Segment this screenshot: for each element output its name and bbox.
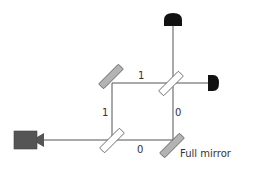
path-label-right: 0 bbox=[175, 107, 181, 118]
source-camera-icon bbox=[14, 131, 44, 149]
detector-right-icon bbox=[208, 75, 219, 91]
full-mirror-top-left bbox=[99, 64, 124, 89]
interferometer-diagram: 1 1 0 0 Full mirror bbox=[0, 0, 260, 169]
path-label-left: 1 bbox=[102, 107, 108, 118]
path-label-bottom: 0 bbox=[137, 144, 143, 155]
detector-top-icon bbox=[164, 13, 182, 26]
path-label-top: 1 bbox=[138, 70, 144, 81]
beam-paths bbox=[44, 22, 212, 140]
full-mirror-label: Full mirror bbox=[180, 148, 232, 159]
